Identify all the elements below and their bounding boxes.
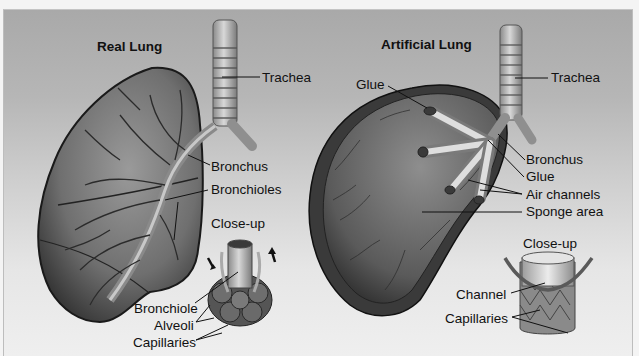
artificial-label-air-channels: Air channels <box>526 188 600 202</box>
real-label-alveoli: Alveoli <box>154 319 194 333</box>
channel-closeup <box>505 252 592 334</box>
real-lung-title: Real Lung <box>97 40 162 54</box>
real-label-closeup: Close-up <box>211 217 265 231</box>
artificial-label-closeup: Close-up <box>523 237 577 251</box>
real-label-bronchioles: Bronchioles <box>211 183 282 197</box>
artificial-label-bronchus: Bronchus <box>526 153 583 167</box>
artificial-label-sponge-area: Sponge area <box>526 205 603 219</box>
real-lung-illustration <box>38 20 276 340</box>
artificial-label-glue-top: Glue <box>356 78 385 92</box>
alveoli-closeup <box>208 240 276 326</box>
real-label-trachea: Trachea <box>262 71 311 85</box>
artificial-label-glue: Glue <box>526 170 555 184</box>
real-label-bronchus: Bronchus <box>211 160 268 174</box>
real-label-bronchiole: Bronchiole <box>134 302 198 316</box>
artificial-lung-title: Artificial Lung <box>381 38 472 52</box>
artificial-label-channel: Channel <box>456 288 506 302</box>
artificial-label-trachea: Trachea <box>551 71 600 85</box>
real-label-capillaries: Capillaries <box>133 336 196 350</box>
artificial-label-capillaries: Capillaries <box>445 312 508 326</box>
